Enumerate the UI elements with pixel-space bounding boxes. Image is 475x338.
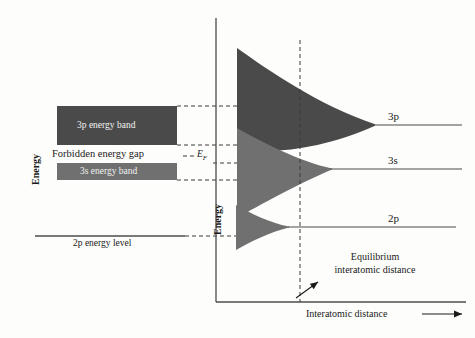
band-3s-label: 3s energy band [80, 166, 137, 176]
equilibrium-line-1: Equilibrium [310, 251, 440, 264]
state-label-3p: 3p [388, 110, 399, 122]
wedge-3p [237, 48, 375, 151]
wedge-2p [236, 205, 289, 250]
band-diagram-svg [0, 0, 475, 338]
fermi-subscript: F [203, 154, 207, 162]
level-2p-label: 2p energy level [73, 238, 131, 248]
x-axis-label: Interatomic distance [306, 308, 387, 319]
state-label-2p: 2p [388, 212, 399, 224]
band-wedges-group [236, 48, 375, 250]
band-3p-label: 3p energy band [77, 120, 135, 130]
state-label-3s: 3s [388, 154, 398, 166]
fermi-level-label: EF [197, 149, 207, 162]
equilibrium-annotation: Equilibrium interatomic distance [310, 251, 440, 276]
left-energy-axis-label: Energy [30, 154, 41, 185]
figure-canvas: Energy 3p energy band Forbidden energy g… [0, 0, 475, 338]
forbidden-gap-label: Forbidden energy gap [52, 148, 144, 159]
equilibrium-arrow [296, 282, 318, 298]
equilibrium-line-2: interatomic distance [310, 264, 440, 277]
right-energy-axis-label: Energy [212, 204, 223, 235]
